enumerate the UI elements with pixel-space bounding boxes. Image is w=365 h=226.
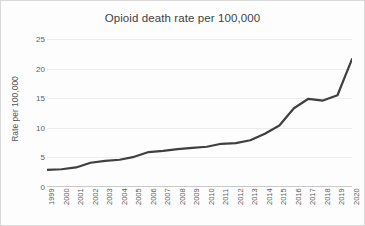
plot-area	[47, 39, 352, 187]
y-tick-label: 0	[23, 183, 45, 192]
x-axis-ticks: 1999200020012002200320042005200620072008…	[47, 188, 352, 226]
y-tick-label: 25	[23, 35, 45, 44]
y-tick-label: 20	[23, 64, 45, 73]
x-tick-label: 2004	[120, 195, 129, 205]
chart-container: Opioid death rate per 100,000 Rate per 1…	[0, 0, 365, 226]
y-tick-label: 10	[23, 123, 45, 132]
x-tick-label: 2016	[294, 195, 303, 205]
x-tick-label: 2011	[221, 195, 230, 205]
y-tick-label: 5	[23, 153, 45, 162]
x-tick-label: 2017	[308, 195, 317, 205]
x-tick-label: 2012	[236, 195, 245, 205]
x-tick-label: 2003	[105, 195, 114, 205]
x-tick-label: 2010	[207, 195, 216, 205]
x-tick-label: 2013	[250, 195, 259, 205]
x-tick-label: 2015	[279, 195, 288, 205]
x-tick-label: 2001	[76, 195, 85, 205]
x-tick-label: 2020	[352, 195, 361, 205]
x-tick-label: 2014	[265, 195, 274, 205]
x-tick-label: 2007	[163, 195, 172, 205]
y-tick-label: 15	[23, 94, 45, 103]
x-tick-label: 2006	[149, 195, 158, 205]
x-tick-label: 2005	[134, 195, 143, 205]
chart-title: Opioid death rate per 100,000	[1, 12, 364, 24]
x-tick-label: 2002	[91, 195, 100, 205]
x-tick-label: 2018	[323, 195, 332, 205]
x-tick-label: 2000	[62, 195, 71, 205]
x-axis-line	[47, 186, 352, 187]
line-series	[47, 39, 352, 187]
y-axis-label: Rate per 100,000	[8, 57, 22, 161]
y-axis-label-text: Rate per 100,000	[10, 76, 20, 142]
x-tick-label: 2009	[192, 195, 201, 205]
x-tick-label: 1999	[47, 195, 56, 205]
x-tick-label: 2008	[178, 195, 187, 205]
y-axis-ticks: 0510152025	[23, 39, 45, 187]
x-tick-label: 2019	[337, 195, 346, 205]
